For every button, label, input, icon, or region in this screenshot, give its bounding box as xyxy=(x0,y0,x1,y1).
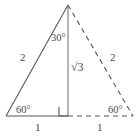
altitude-length-label: √3 xyxy=(71,61,84,73)
triangle-diagram-svg xyxy=(0,0,140,138)
base-left-segment-label: 1 xyxy=(35,122,41,133)
apex-angle-label: 30° xyxy=(51,33,66,44)
right-angle-marker xyxy=(59,107,68,116)
right-side-length-label: 2 xyxy=(110,52,116,63)
bottom-right-angle-label: 60° xyxy=(108,105,123,116)
base-right-segment-label: 1 xyxy=(97,122,103,133)
bottom-left-angle-label: 60° xyxy=(16,105,31,116)
left-hypotenuse-line xyxy=(6,5,68,116)
left-side-length-label: 2 xyxy=(20,52,26,63)
geometry-figure: 2 2 30° √3 60° 60° 1 1 xyxy=(0,0,140,138)
